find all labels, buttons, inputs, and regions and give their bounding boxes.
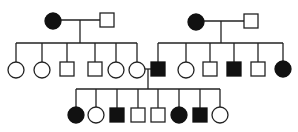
affected-female-symbol: I-3 — [188, 14, 204, 30]
unaffected-male-symbol: I-2 — [100, 13, 114, 27]
unaffected-female-symbol: II-8 — [178, 62, 194, 78]
unaffected-female-symbol: II-1 — [8, 62, 24, 78]
unaffected-female-symbol: II-6 — [129, 62, 145, 78]
affected-male-symbol: II-10 — [227, 62, 241, 76]
unaffected-female-symbol: III-2 — [88, 107, 104, 123]
affected-female-symbol: III-1 — [68, 107, 84, 123]
affected-male-symbol: III-7 — [193, 108, 207, 122]
unaffected-female-symbol: II-2 — [34, 62, 50, 78]
pedigree-symbols: I-1I-2I-3I-4II-1II-2II-3II-4II-5II-6II-7… — [8, 13, 291, 123]
unaffected-female-symbol: II-5 — [108, 62, 124, 78]
unaffected-male-symbol: II-9 — [203, 62, 217, 76]
pedigree-svg: I-1I-2I-3I-4II-1II-2II-3II-4II-5II-6II-7… — [0, 0, 298, 132]
affected-female-symbol: II-12 — [275, 61, 291, 77]
unaffected-male-symbol: III-5 — [151, 108, 165, 122]
affected-female-symbol: I-1 — [45, 13, 61, 29]
affected-male-symbol: II-7 — [151, 62, 165, 76]
unaffected-male-symbol: I-4 — [244, 14, 258, 28]
affected-male-symbol: III-3 — [110, 108, 124, 122]
unaffected-male-symbol: II-11 — [251, 62, 265, 76]
unaffected-male-symbol: II-3 — [60, 62, 74, 76]
unaffected-male-symbol: III-4 — [131, 108, 145, 122]
unaffected-male-symbol: II-4 — [88, 62, 102, 76]
pedigree-lines — [16, 20, 283, 108]
pedigree-chart: Pedigree chart I-1I-2I-3I-4II-1II-2II-3I… — [0, 0, 298, 132]
affected-female-symbol: III-6 — [171, 107, 187, 123]
unaffected-female-symbol: III-8 — [212, 107, 228, 123]
